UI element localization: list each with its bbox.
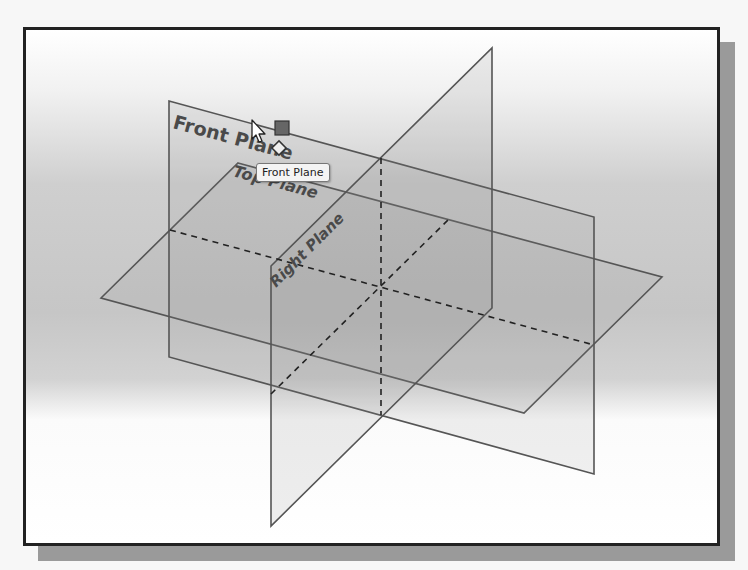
planes-scene[interactable]: Front Plane Top Plane Right Plane <box>23 27 720 546</box>
tooltip: Front Plane <box>256 163 330 182</box>
right-plane[interactable] <box>271 48 492 526</box>
graphics-viewport[interactable]: Front Plane Top Plane Right Plane Front … <box>23 27 720 546</box>
square-handle-icon[interactable] <box>275 121 289 135</box>
